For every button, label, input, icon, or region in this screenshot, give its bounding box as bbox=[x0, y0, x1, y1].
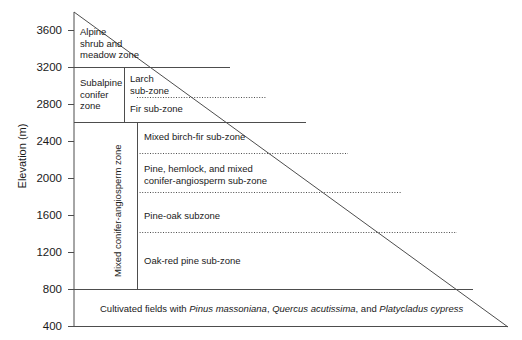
y-tick-2000: 2000 bbox=[18, 173, 62, 185]
base-band-sep-2: , and bbox=[356, 303, 380, 314]
zone-label-alpine: Alpine shrub and meadow zone bbox=[80, 26, 139, 61]
base-band-species-2: Quercus acutissima bbox=[272, 303, 355, 314]
subzone-label-larch: Larch sub-zone bbox=[130, 73, 169, 96]
subzone-label-pine-oak: Pine-oak subzone bbox=[144, 210, 220, 222]
base-band-label: Cultivated fields with Pinus massoniana,… bbox=[100, 303, 463, 315]
y-tick-400: 400 bbox=[18, 321, 62, 333]
y-tick-800: 800 bbox=[18, 284, 62, 296]
y-axis-ticks bbox=[68, 31, 74, 327]
base-band-prefix: Cultivated fields with bbox=[100, 303, 189, 314]
y-axis-title: Elevation (m) bbox=[16, 96, 28, 216]
subzone-label-oak-red-pine: Oak-red pine sub-zone bbox=[144, 255, 241, 267]
elevation-vegetation-zone-diagram: Elevation (m) 3600 3200 2800 2400 2000 1… bbox=[0, 0, 522, 340]
base-band-species-3: Platycladus cypress bbox=[379, 303, 463, 314]
subzone-label-mixed-birch-fir: Mixed birch-fir sub-zone bbox=[144, 131, 245, 143]
zone-label-mixed-conifer-angiosperm: Mixed conifer-angiosperm zone bbox=[112, 144, 123, 277]
base-band-species-1: Pinus massoniana bbox=[189, 303, 267, 314]
zone-label-subalpine: Subalpine conifer zone bbox=[80, 77, 122, 112]
subzone-label-pine-hemlock: Pine, hemlock, and mixed conifer-angiosp… bbox=[144, 163, 267, 186]
y-tick-1200: 1200 bbox=[18, 247, 62, 259]
subzone-label-fir: Fir sub-zone bbox=[130, 103, 183, 115]
y-tick-2800: 2800 bbox=[18, 99, 62, 111]
y-tick-3600: 3600 bbox=[18, 25, 62, 37]
y-tick-2400: 2400 bbox=[18, 136, 62, 148]
y-tick-1600: 1600 bbox=[18, 210, 62, 222]
y-tick-3200: 3200 bbox=[18, 62, 62, 74]
